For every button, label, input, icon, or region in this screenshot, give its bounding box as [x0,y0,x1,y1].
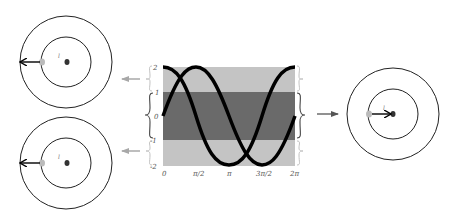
center-dot [391,111,396,117]
x-tick: π [226,170,232,178]
panel-label: l [58,52,60,59]
y-tick: -2 [150,163,157,171]
y-tick: 1 [155,89,159,97]
gray-blob-icon [366,111,372,118]
brace-right-lower [297,141,303,165]
y-tick: 2 [152,64,158,72]
panel-label: l [58,153,60,160]
diagram-canvas: l l l 2 1 0 -1 -2 0 [0,0,454,220]
brace-right-middle [297,93,305,138]
panel-bottom-left: l [20,117,112,209]
brace-right-upper [297,66,303,91]
brace-left-middle [145,93,153,138]
center-dot [65,59,70,65]
y-tick: 0 [154,113,159,121]
sinusoid-plot: 2 1 0 -1 -2 0 π/2 π 3π/2 2π [150,64,299,178]
x-tick: π/2 [192,170,205,178]
x-tick: 3π/2 [256,170,272,178]
panel-top-left: l [20,16,112,108]
x-tick: 2π [289,170,299,178]
brace-left-upper [146,66,152,91]
band-lower [163,140,295,166]
x-tick: 0 [162,170,167,178]
panel-right: l [347,68,439,160]
panel-label: l [383,104,385,111]
center-dot [65,160,70,166]
